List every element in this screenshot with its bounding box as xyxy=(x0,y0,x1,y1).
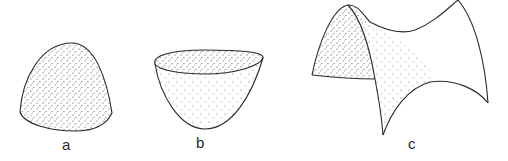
panel-label-a: a xyxy=(62,137,70,152)
bowl-shape-b xyxy=(155,50,263,129)
panel-label-b: b xyxy=(196,135,204,150)
panel-label-c: c xyxy=(408,136,416,151)
curvature-surfaces-figure xyxy=(0,0,508,161)
dome-shape-a xyxy=(20,43,112,131)
saddle-shape-c xyxy=(312,0,488,135)
